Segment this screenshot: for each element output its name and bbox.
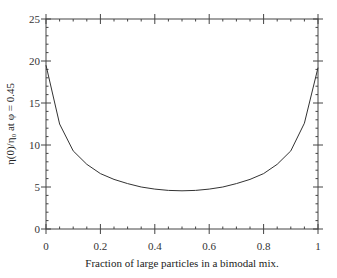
y-tick-label: 20 xyxy=(29,55,41,67)
x-tick-label: 0.8 xyxy=(257,240,271,252)
y-tick-label: 0 xyxy=(35,223,41,235)
y-tick-label: 5 xyxy=(35,181,41,193)
axis-ticks xyxy=(41,14,323,234)
x-tick-label: 0.6 xyxy=(202,240,216,252)
y-tick-label: 25 xyxy=(29,13,41,25)
data-line xyxy=(46,65,318,191)
x-tick-label: 0.4 xyxy=(148,240,162,252)
x-tick-labels: 00.20.40.60.81 xyxy=(43,240,321,252)
y-tick-label: 10 xyxy=(29,139,41,151)
line-chart: 00.20.40.60.81 0510152025 Fraction of la… xyxy=(0,0,337,278)
plot-frame xyxy=(46,19,318,229)
x-tick-label: 0.2 xyxy=(94,240,108,252)
y-tick-label: 15 xyxy=(29,97,41,109)
x-axis-label: Fraction of large particles in a bimodal… xyxy=(85,257,279,269)
x-tick-label: 1 xyxy=(315,240,321,252)
y-axis-label: η(0)/η₀ at φ = 0.45 xyxy=(4,83,17,165)
x-tick-label: 0 xyxy=(43,240,49,252)
y-tick-labels: 0510152025 xyxy=(29,13,41,235)
